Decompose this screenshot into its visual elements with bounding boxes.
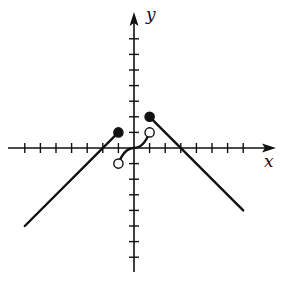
closed-dot-icon bbox=[145, 112, 154, 121]
right-piece-line bbox=[150, 117, 244, 211]
y-axis-label: y bbox=[145, 4, 156, 24]
x-axis-label: x bbox=[264, 151, 274, 171]
closed-dot-icon bbox=[114, 128, 123, 137]
piecewise-function-graph: x y bbox=[0, 0, 295, 290]
open-dot-icon bbox=[114, 159, 123, 168]
open-dot-icon bbox=[145, 128, 154, 137]
axes bbox=[8, 12, 276, 272]
